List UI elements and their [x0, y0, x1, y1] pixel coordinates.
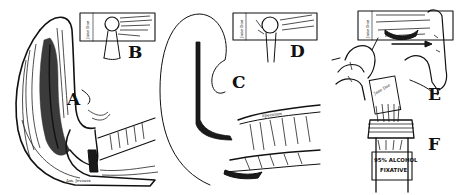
- slide-label-d: Jane Doe: [239, 19, 244, 39]
- panel-label-c: C: [232, 72, 246, 92]
- slide-label-f: Jane Doe: [372, 82, 392, 96]
- panel-label-a: A: [66, 89, 81, 109]
- vaginal-wall: [98, 118, 158, 175]
- fixative-label-line2: FIXATIVE: [380, 167, 407, 173]
- pap-smear-diagram: A Am. Jevoura Jane Doe B Speculum: [0, 0, 466, 195]
- glass-slide: [233, 13, 317, 40]
- slide-label-e: Jane Doe: [365, 19, 370, 39]
- glass-slide: [80, 13, 155, 41]
- panel-d-slide: Jane Doe D: [233, 13, 317, 62]
- fixative-label-line1: 95% ALCOHOL: [374, 157, 418, 163]
- panel-label-b: B: [128, 42, 142, 62]
- panel-label-e: E: [428, 84, 441, 104]
- panel-label-f: F: [428, 134, 440, 154]
- panel-e-hands: Jane Doe E: [332, 10, 453, 104]
- artist-signature: Am. Jevoura: [65, 178, 91, 183]
- panel-label-d: D: [290, 41, 305, 61]
- panel-b-slide: Jane Doe B: [80, 13, 155, 62]
- slide-label-b: Jane Doe: [85, 20, 90, 40]
